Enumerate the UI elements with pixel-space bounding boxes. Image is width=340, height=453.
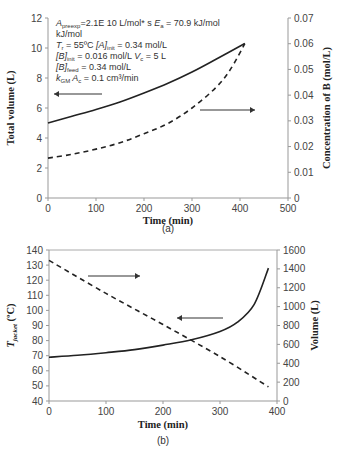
y-tick-label: 110 xyxy=(27,290,43,301)
y2-axis-label: Volume (L) xyxy=(309,300,321,351)
y2-tick-label: 0.06 xyxy=(294,38,314,49)
svg-text:kJ/mol: kJ/mol xyxy=(56,29,82,39)
x-axis-label: Time (min) xyxy=(138,419,189,431)
y2-tick-label: 0 xyxy=(294,193,300,204)
y-axis-label: Tjacket (ºC) xyxy=(5,303,19,348)
x-tick-label: 100 xyxy=(88,203,105,214)
y2-tick-label: 1000 xyxy=(283,301,306,312)
y2-tick-label: 0.07 xyxy=(294,13,314,24)
y2-tick-label: 0.05 xyxy=(294,64,314,75)
y-tick-label: 40 xyxy=(32,396,44,407)
y2-tick-label: 1400 xyxy=(283,263,306,274)
svg-text:Apreexp=2.1E 10 L/mol* s Ea =: Apreexp=2.1E 10 L/mol* s Ea = 70.9 kJ/mo… xyxy=(55,18,220,29)
y2-tick-label: 0.04 xyxy=(294,90,314,101)
y2-tick-label: 600 xyxy=(283,339,300,350)
x-tick-label: 500 xyxy=(280,203,297,214)
arrow-left-icon-head xyxy=(177,315,182,321)
y-tick-label: 2 xyxy=(36,163,42,174)
y-tick-label: 4 xyxy=(36,133,42,144)
x-tick-label: 0 xyxy=(46,406,52,417)
y2-tick-label: 400 xyxy=(283,358,300,369)
y2-tick-label: 1200 xyxy=(283,282,306,293)
svg-text:kGM Ac = 0.1 cm³/min: kGM Ac = 0.1 cm³/min xyxy=(56,73,139,84)
y-tick-label: 140 xyxy=(26,245,43,256)
figure: 010020030040050002468101200.010.020.030.… xyxy=(0,0,340,453)
y2-tick-label: 0 xyxy=(283,396,289,407)
y-tick-label: 70 xyxy=(32,350,44,361)
arrow-right-icon-head xyxy=(250,107,255,113)
x-tick-label: 400 xyxy=(269,406,286,417)
chart-panel-b: 0100200300400405060708090100110120130140… xyxy=(5,245,321,447)
chart-panel-a: 010020030040050002468101200.010.020.030.… xyxy=(5,13,333,235)
y-tick-label: 12 xyxy=(31,13,43,24)
arrow-right-icon-head xyxy=(135,273,140,279)
x-tick-label: 100 xyxy=(98,406,115,417)
svg-text:[B]feed = 0.34 mol/L: [B]feed = 0.34 mol/L xyxy=(55,62,131,73)
x-tick-label: 400 xyxy=(232,203,249,214)
y2-tick-label: 0.02 xyxy=(294,141,314,152)
svg-text:Tr = 55ºC [A]init = 0.34 mol: Tr = 55ºC [A]init = 0.34 mol/L xyxy=(56,40,167,51)
y2-tick-label: 200 xyxy=(283,377,300,388)
y-tick-label: 10 xyxy=(31,43,43,54)
y2-tick-label: 0.03 xyxy=(294,115,314,126)
x-tick-label: 300 xyxy=(184,203,201,214)
y-tick-label: 130 xyxy=(26,260,43,271)
arrow-left-icon-head xyxy=(54,91,59,97)
x-tick-label: 0 xyxy=(45,203,51,214)
x-tick-label: 300 xyxy=(212,406,229,417)
x-tick-label: 200 xyxy=(136,203,153,214)
y-tick-label: 8 xyxy=(36,73,42,84)
y-axis-label: Total volume (L) xyxy=(5,70,17,145)
y-tick-label: 6 xyxy=(36,103,42,114)
svg-text:[B]init = 0.016 mol/L Vc = 5: [B]init = 0.016 mol/L Vc = 5 L xyxy=(55,51,166,62)
parameter-annotation: Apreexp=2.1E 10 L/mol* s Ea = 70.9 kJ/mo… xyxy=(55,18,220,84)
series-t-jacket xyxy=(49,268,268,357)
y-tick-label: 60 xyxy=(32,365,44,376)
panel-caption: (b) xyxy=(157,435,169,446)
y-tick-label: 90 xyxy=(32,320,44,331)
y2-tick-label: 800 xyxy=(283,320,300,331)
y-tick-label: 120 xyxy=(26,275,43,286)
y2-axis-label: Concentration of B (mol/L) xyxy=(321,46,333,169)
y-tick-label: 50 xyxy=(32,380,44,391)
y-tick-label: 80 xyxy=(32,335,44,346)
y2-tick-label: 0.01 xyxy=(294,167,314,178)
y2-tick-label: 1600 xyxy=(283,245,306,256)
y-tick-label: 0 xyxy=(36,193,42,204)
y-tick-label: 100 xyxy=(26,305,43,316)
x-tick-label: 200 xyxy=(155,406,172,417)
panel-caption: (a) xyxy=(162,223,174,234)
